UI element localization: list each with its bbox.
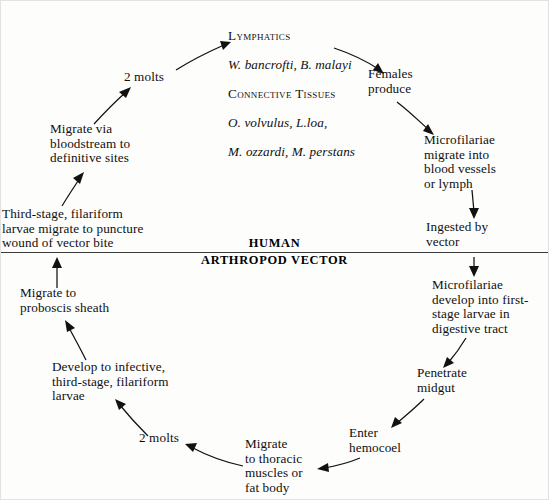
node-migrate-thoracic-muscles: Migrate to thoracic muscles or fat body	[245, 437, 303, 495]
arrow-microfilariae-to-ingested	[469, 190, 479, 219]
arrow-penetrate-to-hemocoel	[391, 399, 424, 428]
life-cycle-diagram: HUMAN ARTHROPOD VECTOR Lymphatics W. ban…	[0, 0, 549, 500]
adult-site-connective-species-line1: O. volvulus, L.loa,	[228, 116, 403, 131]
node-third-stage-puncture-wound: Third-stage, filariform larvae migrate t…	[2, 207, 143, 251]
arrow-develop-to-penetrate	[443, 338, 466, 368]
arrow-hemocoel-to-thoracic	[317, 458, 360, 472]
arrow-thirdstage-to-bloodstream	[62, 172, 84, 206]
node-migrate-to-proboscis-sheath: Migrate to proboscis sheath	[20, 286, 109, 315]
arrow-twomolts-to-adultsites	[176, 41, 231, 70]
node-develop-to-infective: Develop to infective, third-stage, filar…	[52, 360, 169, 404]
node-mf-develop-first-stage: Microfilariae develop into first- stage …	[432, 278, 528, 336]
node-microfilariae-migrate: Microfilariae migrate into blood vessels…	[424, 133, 496, 191]
node-two-molts-vector: 2 molts	[139, 431, 179, 446]
arrow-thoracic-to-twomolts	[185, 443, 243, 466]
node-penetrate-midgut: Penetrate midgut	[417, 366, 467, 395]
node-migrate-via-bloodstream: Migrate via bloodstream to definitive si…	[50, 122, 130, 166]
node-enter-hemocoel: Enter hemocoel	[349, 426, 401, 455]
host-label-arthropod-vector: ARTHROPOD VECTOR	[0, 253, 549, 268]
node-females-produce: Females produce	[368, 67, 413, 96]
arrow-bloodstream-to-twomolts	[94, 87, 131, 124]
node-ingested-by-vector: Ingested by vector	[426, 220, 488, 249]
arrow-infective-to-proboscis	[65, 320, 86, 360]
adult-site-connective-species-line2: M. ozzardi, M. perstans	[228, 145, 403, 160]
node-two-molts-human: 2 molts	[124, 70, 164, 85]
adult-site-lymphatics-heading: Lymphatics	[228, 29, 403, 44]
